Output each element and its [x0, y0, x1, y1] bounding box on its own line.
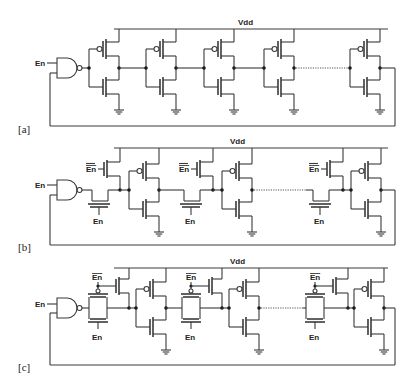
inverter-a1 — [87, 39, 124, 114]
pullup-b2: En — [179, 148, 215, 192]
nand-gate-c — [57, 298, 82, 318]
en-label-b1: En — [93, 217, 103, 226]
en-bar-label-c2: En — [186, 273, 196, 282]
vdd-label-c: Vdd — [230, 257, 245, 266]
vdd-label-a: Vdd — [238, 18, 253, 27]
inverter-b1 — [127, 161, 164, 236]
pass-gate-b3: En — [306, 190, 343, 226]
inverter-a5 — [348, 39, 385, 114]
panel-tag-c: [c] — [18, 361, 30, 373]
en-input-label-a: En — [35, 59, 45, 68]
nand-gate-b — [57, 180, 82, 200]
panel-a: Vdd En [a] — [18, 18, 395, 135]
nand-gate-a — [57, 58, 82, 78]
pullup-b1: En — [86, 148, 122, 192]
en-label-c1: En — [92, 333, 102, 342]
inverter-c3 — [352, 279, 389, 354]
transmission-gate-c3: En En — [303, 273, 348, 342]
pullup-c3 — [333, 268, 350, 310]
panel-tag-b: [b] — [18, 241, 31, 253]
pullup-b3: En — [309, 148, 345, 192]
pullup-c2 — [209, 268, 224, 310]
en-bar-label-b3: En — [309, 165, 319, 174]
en-input-label-b: En — [35, 181, 45, 190]
inverter-a3 — [202, 39, 239, 114]
en-bar-label-c1: En — [92, 273, 102, 282]
vdd-label-b: Vdd — [230, 137, 245, 146]
circuit-diagram: Vdd En [a] Vdd En — [0, 0, 413, 389]
en-bar-label-c3: En — [310, 273, 320, 282]
en-label-c2: En — [185, 333, 195, 342]
inverter-a4 — [262, 39, 299, 114]
transmission-gate-c1: En En — [88, 273, 129, 342]
panel-c: Vdd En En En — [18, 257, 395, 373]
inverter-b2 — [220, 161, 257, 236]
pass-gate-b1: En — [88, 190, 120, 226]
transmission-gate-c2: En En — [181, 273, 222, 342]
en-label-b2: En — [185, 217, 195, 226]
inverter-c2 — [227, 279, 264, 354]
pass-gate-b2: En — [180, 190, 213, 226]
panel-tag-a: [a] — [18, 123, 30, 135]
en-bar-label-b2: En — [179, 165, 189, 174]
inverter-c1 — [134, 279, 171, 354]
pullup-c1 — [116, 268, 131, 310]
en-label-b3: En — [314, 217, 324, 226]
inverter-a2 — [144, 39, 181, 114]
inverter-b3 — [349, 161, 386, 236]
en-bar-label-b1: En — [86, 165, 96, 174]
en-label-c3: En — [309, 333, 319, 342]
panel-b: Vdd En En En — [18, 137, 395, 253]
en-input-label-c: En — [35, 300, 45, 309]
